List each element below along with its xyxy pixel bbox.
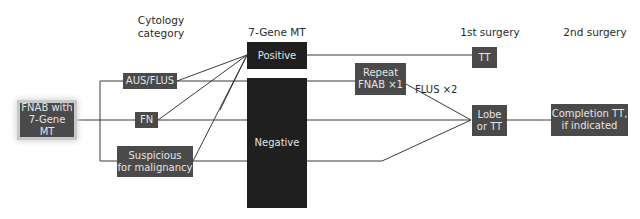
node-lobe-line2: or TT [477, 121, 502, 133]
flowchart-canvas: Cytology category 7-Gene MT 1st surgery … [0, 0, 640, 219]
node-repeat-line1: Repeat [363, 67, 398, 79]
header-7-gene-mt: 7-Gene MT [242, 26, 312, 39]
node-completion-tt: Completion TT, if indicated [551, 104, 628, 136]
node-suspicious-line1: Suspicious [129, 150, 182, 162]
header-cytology-line2: category [126, 27, 196, 40]
node-lobe-or-tt: Lobe or TT [472, 105, 507, 136]
node-fnab-line1: FNAB with [21, 102, 72, 114]
node-suspicious-line2: for malignancy [118, 162, 193, 174]
connector-lines [0, 0, 640, 219]
node-completion-line2: if indicated [562, 120, 618, 132]
edge-label-flus-x2: FLUS ×2 [415, 84, 457, 95]
header-cytology-line1: Cytology [126, 14, 196, 27]
node-repeat-line2: FNAB ×1 [358, 79, 403, 91]
node-lobe-line1: Lobe [477, 109, 501, 121]
node-negative: Negative [247, 78, 307, 208]
header-cytology-category: Cytology category [126, 14, 196, 40]
node-completion-line1: Completion TT, [552, 108, 628, 120]
node-aus-flus: AUS/FLUS [123, 73, 177, 89]
node-repeat-fnab: Repeat FNAB ×1 [355, 63, 406, 95]
node-tt: TT [472, 47, 497, 68]
header-2nd-surgery: 2nd surgery [560, 26, 630, 39]
header-1st-surgery: 1st surgery [455, 26, 525, 39]
node-suspicious-for-malignancy: Suspicious for malignancy [117, 146, 193, 177]
node-fnab-line2: 7-Gene MT [20, 114, 74, 138]
node-fnab-with-7-gene-mt: FNAB with 7-Gene MT [20, 103, 74, 137]
node-fn: FN [135, 112, 158, 128]
node-positive: Positive [247, 42, 307, 69]
